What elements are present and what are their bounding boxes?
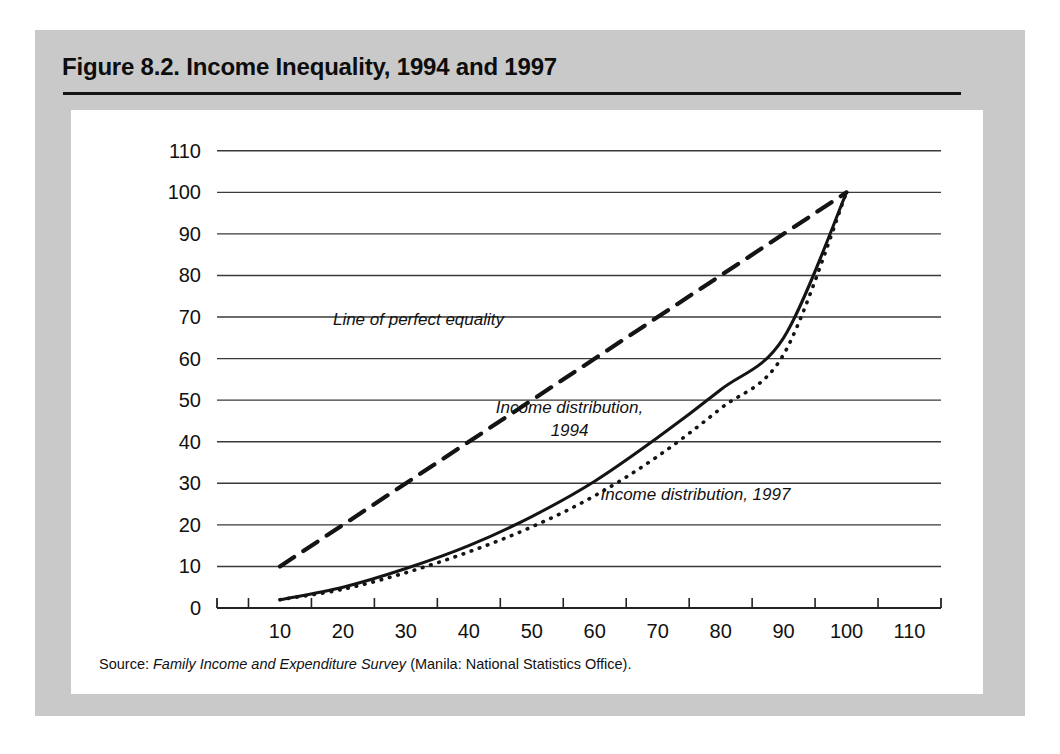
gridlines bbox=[217, 151, 941, 567]
lorenz-curve-chart: 0102030405060708090100110 10203040506070… bbox=[71, 110, 983, 694]
source-note: Source: Family Income and Expenditure Su… bbox=[99, 656, 631, 672]
svg-text:100: 100 bbox=[168, 181, 201, 203]
equality-label: Line of perfect equality bbox=[333, 310, 506, 329]
svg-text:0: 0 bbox=[190, 597, 201, 619]
svg-text:100: 100 bbox=[830, 620, 863, 642]
page-title: Figure 8.2. Income Inequality, 1994 and … bbox=[62, 53, 557, 81]
title-divider bbox=[63, 92, 961, 95]
series-line-of-perfect-equality bbox=[280, 192, 847, 566]
svg-text:60: 60 bbox=[584, 620, 606, 642]
data-series bbox=[280, 192, 847, 599]
svg-text:40: 40 bbox=[179, 431, 201, 453]
svg-text:80: 80 bbox=[710, 620, 732, 642]
svg-text:70: 70 bbox=[647, 620, 669, 642]
series-income-distribution-1997 bbox=[280, 192, 847, 599]
source-publisher: (Manila: National Statistics Office). bbox=[410, 656, 631, 672]
source-publication: Family Income and Expenditure Survey bbox=[153, 656, 406, 672]
svg-text:30: 30 bbox=[395, 620, 417, 642]
svg-text:70: 70 bbox=[179, 306, 201, 328]
svg-text:110: 110 bbox=[169, 140, 201, 162]
svg-text:Income distribution,: Income distribution, bbox=[496, 398, 643, 417]
svg-text:90: 90 bbox=[179, 223, 201, 245]
source-label: Source: bbox=[99, 656, 149, 672]
svg-text:30: 30 bbox=[179, 472, 201, 494]
figure-panel: Figure 8.2. Income Inequality, 1994 and … bbox=[35, 30, 1025, 716]
svg-text:50: 50 bbox=[179, 389, 201, 411]
y-axis-tick-labels: 0102030405060708090100110 bbox=[168, 140, 201, 619]
svg-text:110: 110 bbox=[894, 620, 926, 642]
plot-card: 0102030405060708090100110 10203040506070… bbox=[71, 110, 983, 694]
svg-text:90: 90 bbox=[772, 620, 794, 642]
svg-text:20: 20 bbox=[332, 620, 354, 642]
dist-1994-label: Income distribution,1994 bbox=[496, 398, 643, 440]
svg-text:60: 60 bbox=[179, 348, 201, 370]
svg-text:10: 10 bbox=[269, 620, 291, 642]
x-axis-tick-labels: 102030405060708090100110 bbox=[269, 620, 926, 642]
svg-text:10: 10 bbox=[179, 555, 201, 577]
series-income-distribution-1994 bbox=[280, 192, 847, 599]
svg-text:50: 50 bbox=[521, 620, 543, 642]
svg-text:Income distribution, 1997: Income distribution, 1997 bbox=[600, 485, 790, 504]
svg-text:40: 40 bbox=[458, 620, 480, 642]
svg-text:80: 80 bbox=[179, 264, 201, 286]
svg-text:Line of perfect equality: Line of perfect equality bbox=[333, 310, 506, 329]
svg-text:1994: 1994 bbox=[551, 421, 589, 440]
svg-text:20: 20 bbox=[179, 514, 201, 536]
x-axis bbox=[217, 598, 941, 608]
dist-1997-label: Income distribution, 1997 bbox=[600, 485, 790, 504]
